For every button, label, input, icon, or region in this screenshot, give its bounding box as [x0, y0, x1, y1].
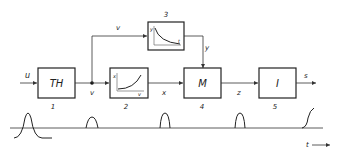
block-2-inset-ylabel: x: [112, 73, 116, 79]
signal-s-label: s: [304, 72, 308, 80]
block-4-label: M: [198, 78, 207, 89]
signal-z-label: z: [236, 89, 241, 97]
signal-y-label: y: [204, 44, 210, 52]
block-3: [148, 22, 184, 50]
block-5-number: 5: [273, 103, 278, 111]
waveform-v-pulse: [86, 117, 98, 128]
block-1-label: TH: [50, 78, 64, 89]
waveform-s-rising: [302, 108, 314, 128]
block-5-label: I: [276, 78, 279, 89]
diagram-svg: u TH 1 v v 3 y t y 2 x v x M 4 z I 5: [0, 0, 338, 150]
signal-x-label: x: [161, 89, 167, 97]
waveform-input-pulse: [14, 113, 52, 138]
signal-u-label: u: [25, 71, 30, 80]
wire-y: [184, 36, 203, 68]
signal-v-branch-label: v: [116, 24, 121, 32]
block-1-number: 1: [51, 103, 55, 111]
waveform-x-pulse: [160, 113, 170, 128]
block-diagram: u TH 1 v v 3 y t y 2 x v x M 4 z I 5: [0, 0, 338, 150]
block-2-number: 2: [124, 103, 129, 111]
waveform-z-pulse: [235, 113, 245, 128]
time-axis-label: t: [306, 141, 309, 149]
block-3-number: 3: [164, 11, 168, 19]
signal-v-node-label: v: [90, 89, 95, 97]
block-4-number: 4: [200, 103, 204, 111]
